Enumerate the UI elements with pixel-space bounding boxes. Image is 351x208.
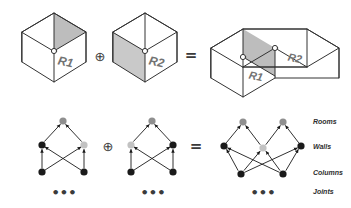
gm-edge-colL-wallC [244,151,260,170]
g2-node-room [148,117,155,124]
level-label-joints: Joints [313,188,334,195]
g2-edge-wallL-room [133,124,149,141]
graph-r2 [131,124,173,170]
g2-node-column-right [169,168,176,175]
gm-edge-wallR-roomR [285,125,298,142]
g1-edge-wallR-room [66,124,82,141]
ellipsis-graph-merged: ••• [249,186,277,199]
figure-canvas: R1 R2 R1 R2 ⊕ = [0,0,351,208]
gm-edge-wallL-roomL [226,125,240,142]
g2-node-column-left [127,168,134,175]
gm-node-column-left [237,170,244,177]
gm-edge-wallC-roomL [246,126,261,145]
g2-node-wall-right [169,141,176,148]
equals-operator-bottom: = [188,139,204,154]
graph-r2-nodes [127,117,176,175]
gm-node-wall-right [297,142,304,149]
gm-node-wall-shared [259,144,266,151]
level-label-rooms: Rooms [313,118,337,125]
gm-node-room-right [279,118,286,125]
g1-node-column-right [80,168,87,175]
ellipsis-graph-r1: ••• [50,186,78,199]
level-label-columns: Columns [313,169,343,176]
g1-node-wall-left [38,141,45,148]
gm-node-column-right [279,170,286,177]
g1-edge-wallL-room [44,124,60,141]
g1-node-room [59,117,66,124]
graph-merged-nodes [220,118,304,177]
ellipsis-graph-r2: ••• [139,186,167,199]
level-label-walls: Walls [313,143,331,150]
g2-edge-wallR-room [155,124,171,141]
plus-operator-bottom: ⊕ [100,140,116,153]
gm-node-wall-left [220,142,227,149]
g1-node-column-left [38,168,45,175]
graph-layer [0,0,351,208]
g2-node-wall-left [127,141,134,148]
g1-node-wall-right [80,141,87,148]
gm-edge-colR-wallC [266,151,280,170]
graph-r1 [42,124,84,170]
gm-node-room-left [239,118,246,125]
gm-edge-wallC-roomR [266,126,281,145]
graph-r1-nodes [38,117,87,175]
